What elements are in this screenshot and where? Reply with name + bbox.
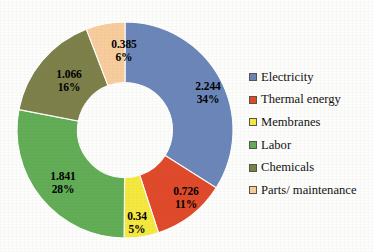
legend-swatch-icon xyxy=(249,73,257,81)
slice-value: 0.34 xyxy=(127,210,147,223)
slice-percent: 5% xyxy=(127,222,147,235)
legend-swatch-icon xyxy=(249,96,257,104)
legend-item-thermal-energy[interactable]: Thermal energy xyxy=(249,89,373,112)
legend-item-membranes[interactable]: Membranes xyxy=(249,111,373,134)
legend-swatch-icon xyxy=(249,164,257,172)
legend-item-electricity[interactable]: Electricity xyxy=(249,66,373,89)
slice-label-thermal-energy: 0.72611% xyxy=(173,185,198,210)
chart-legend: ElectricityThermal energyMembranesLaborC… xyxy=(249,66,373,202)
legend-label: Electricity xyxy=(261,71,313,84)
slice-percent: 6% xyxy=(111,50,136,63)
legend-item-labor[interactable]: Labor xyxy=(249,134,373,157)
legend-label: Thermal energy xyxy=(261,93,341,106)
legend-item-chemicals[interactable]: Chemicals xyxy=(249,156,373,179)
legend-label: Chemicals xyxy=(261,161,314,174)
slice-percent: 11% xyxy=(173,197,198,210)
legend-label: Membranes xyxy=(261,116,320,129)
slice-value: 0.385 xyxy=(111,38,136,51)
slice-value: 2.244 xyxy=(195,80,220,93)
legend-swatch-icon xyxy=(249,141,257,149)
slice-percent: 34% xyxy=(195,92,220,105)
legend-swatch-icon xyxy=(249,118,257,126)
donut-chart-figure: 2.24434%0.72611%0.345%1.84128%1.06616%0.… xyxy=(0,0,373,252)
legend-label: Labor xyxy=(261,139,291,152)
slice-label-electricity: 2.24434% xyxy=(195,80,220,105)
slice-label-chemicals: 1.06616% xyxy=(56,68,81,93)
slice-value: 0.726 xyxy=(173,185,198,198)
legend-label: Parts/ maintenance xyxy=(261,184,356,197)
slice-percent: 16% xyxy=(56,80,81,93)
legend-swatch-icon xyxy=(249,186,257,194)
slice-label-labor: 1.84128% xyxy=(50,170,75,195)
slice-value: 1.066 xyxy=(56,68,81,81)
donut-slice-electricity[interactable] xyxy=(125,22,233,188)
slice-label-membranes: 0.345% xyxy=(127,210,147,235)
slice-value: 1.841 xyxy=(50,170,75,183)
slice-percent: 28% xyxy=(50,182,75,195)
chart-plot-area: 2.24434%0.72611%0.345%1.84128%1.06616%0.… xyxy=(12,8,240,248)
slice-label-parts-maintenance: 0.3856% xyxy=(111,38,136,63)
legend-item-parts-maintenance[interactable]: Parts/ maintenance xyxy=(249,179,373,202)
